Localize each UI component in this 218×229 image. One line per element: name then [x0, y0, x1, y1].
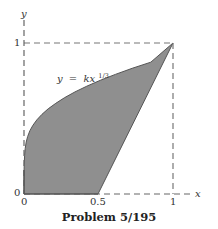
y-tick-1: 1 — [14, 37, 20, 48]
y-tick-0: 0 — [14, 187, 20, 198]
figure-caption: Problem 5/195 — [62, 210, 156, 224]
equation-equals: = — [69, 73, 77, 84]
x-axis-label: x — [195, 188, 201, 199]
diagram-canvas: y x 1 0 0 0.5 1 y = kx 1/3 Problem 5/195 — [0, 0, 218, 229]
x-tick-1: 1 — [170, 196, 176, 207]
x-tick-0-5: 0.5 — [90, 196, 106, 207]
y-axis-label: y — [20, 8, 27, 19]
equation-exponent: 1/3 — [98, 72, 108, 80]
shaded-region — [24, 43, 173, 194]
x-tick-0: 0 — [21, 196, 27, 207]
equation-lhs: y — [56, 73, 63, 84]
equation-rhs: kx — [83, 73, 95, 84]
